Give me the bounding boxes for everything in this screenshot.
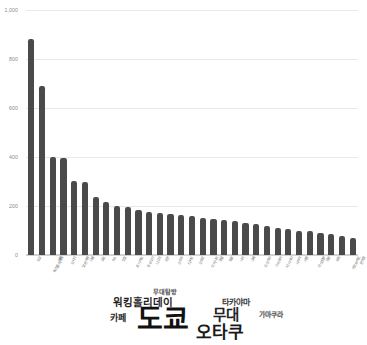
- x-axis-tick-label: 벚꽃: [230, 256, 236, 263]
- word-cloud: 무대탐방워킹홀리데이타카야마카페도쿄무대가마쿠라오타쿠: [0, 288, 362, 345]
- bar: [93, 197, 99, 255]
- bar: [103, 202, 109, 255]
- y-axis-tick-label: 400: [0, 154, 18, 160]
- bar: [50, 157, 56, 255]
- y-axis-tick-label: 0: [0, 252, 18, 258]
- bar: [125, 207, 131, 255]
- x-axis-tick-label: 호텔: [219, 256, 225, 263]
- bar: [275, 228, 281, 255]
- bar-series: [26, 10, 358, 255]
- x-axis-tick-label: 디저트: [188, 256, 195, 266]
- x-axis-tick-label: 라멘: [304, 256, 310, 263]
- x-axis-tick-label: 나라: [240, 256, 246, 263]
- word-cloud-term: 무대탐방: [153, 289, 177, 295]
- bar-chart: 02004006008001,000 도쿄워킹홀리데이여행오사카일본여행카페교토…: [0, 0, 362, 300]
- bar: [60, 158, 66, 256]
- bar: [71, 181, 77, 255]
- x-axis-tick-label: 고베: [251, 256, 257, 263]
- x-axis-tick-label: 신주쿠: [178, 256, 185, 266]
- bar: [221, 220, 227, 255]
- bar: [285, 229, 291, 255]
- y-axis-tick-label: 800: [0, 56, 18, 62]
- x-axis-tick-label: 가마쿠라: [276, 256, 285, 268]
- word-cloud-term: 가마쿠라: [259, 312, 283, 319]
- word-cloud-term: 무대: [213, 308, 239, 323]
- bar: [264, 226, 270, 255]
- word-cloud-term: 도쿄: [137, 306, 189, 334]
- bar: [200, 218, 206, 255]
- x-axis-tick-label: 요코하마: [265, 256, 274, 268]
- x-axis-tick-label: 카페: [90, 256, 96, 263]
- x-axis-tick-label: 오사카: [70, 256, 77, 266]
- bar: [189, 216, 195, 255]
- bar: [242, 223, 248, 255]
- x-axis-tick-label: 온천: [165, 256, 171, 263]
- x-axis-tick-label: 맛집: [122, 256, 128, 263]
- word-cloud-term: 오타쿠: [196, 324, 244, 341]
- plot-area: 02004006008001,000: [26, 10, 358, 255]
- bar: [28, 39, 34, 255]
- y-axis-tick-label: 1,000: [0, 7, 18, 13]
- y-axis-tick-label: 600: [0, 105, 18, 111]
- x-axis-tick-label: 숙소: [112, 256, 118, 263]
- x-axis-tick-label: 교토: [101, 256, 107, 263]
- bar: [157, 213, 163, 255]
- bar: [167, 214, 173, 255]
- x-axis-tick-label: 도쿄: [37, 256, 43, 263]
- x-axis-tick-label: 타카야마: [286, 256, 295, 268]
- bar: [317, 233, 323, 255]
- x-axis-tick-label: 유학: [337, 256, 343, 263]
- bar: [253, 224, 259, 255]
- bar: [82, 182, 88, 255]
- bar: [307, 231, 313, 255]
- word-cloud-term: 타카야마: [222, 299, 250, 307]
- bar: [210, 219, 216, 255]
- bar: [350, 238, 356, 255]
- bar: [114, 206, 120, 255]
- bar: [339, 236, 345, 255]
- bar: [328, 234, 334, 255]
- x-axis-tick-label: 편의점: [360, 256, 367, 266]
- bar: [135, 210, 141, 255]
- bar: [232, 221, 238, 255]
- x-axis-tick-label: 관광: [326, 256, 332, 263]
- bar: [146, 212, 152, 255]
- word-cloud-term: 카페: [110, 314, 126, 323]
- x-axis-tick-label: 나고야: [156, 256, 163, 266]
- x-axis-tick-label: 홋카이도: [136, 256, 145, 268]
- bar: [39, 86, 45, 255]
- x-axis-tick-label: 삿포로: [199, 256, 206, 266]
- bar: [296, 231, 302, 256]
- x-axis-tick-label: 시부야: [295, 256, 302, 266]
- bar: [178, 215, 184, 255]
- y-axis-tick-label: 200: [0, 203, 18, 209]
